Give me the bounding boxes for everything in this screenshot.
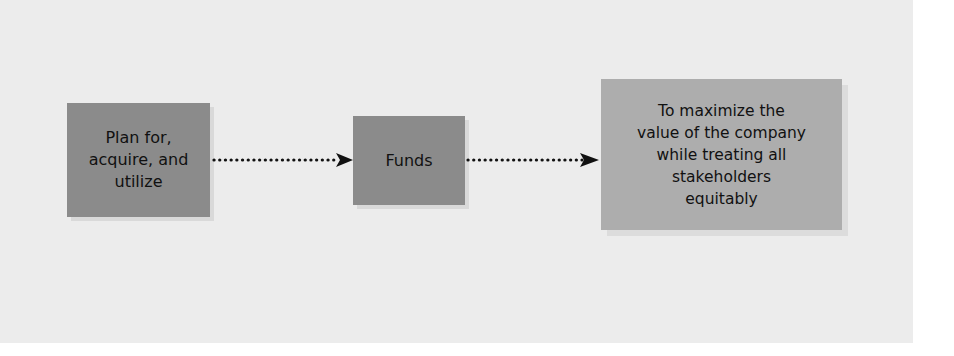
node-plan-acquire-utilize: Plan for, acquire, and utilize bbox=[67, 103, 210, 217]
arrow-icon bbox=[212, 152, 353, 168]
node-label: Funds bbox=[385, 150, 432, 172]
diagram-panel: Plan for, acquire, and utilize Funds To … bbox=[0, 0, 913, 343]
dotted-arrow-plan-to-funds bbox=[212, 152, 353, 168]
node-label: To maximize the value of the company whi… bbox=[637, 100, 806, 210]
dotted-arrow-funds-to-goal bbox=[466, 152, 599, 168]
node-label: Plan for, acquire, and utilize bbox=[89, 127, 189, 193]
arrow-icon bbox=[466, 152, 599, 168]
node-goal: To maximize the value of the company whi… bbox=[601, 79, 842, 230]
node-funds: Funds bbox=[353, 116, 465, 205]
